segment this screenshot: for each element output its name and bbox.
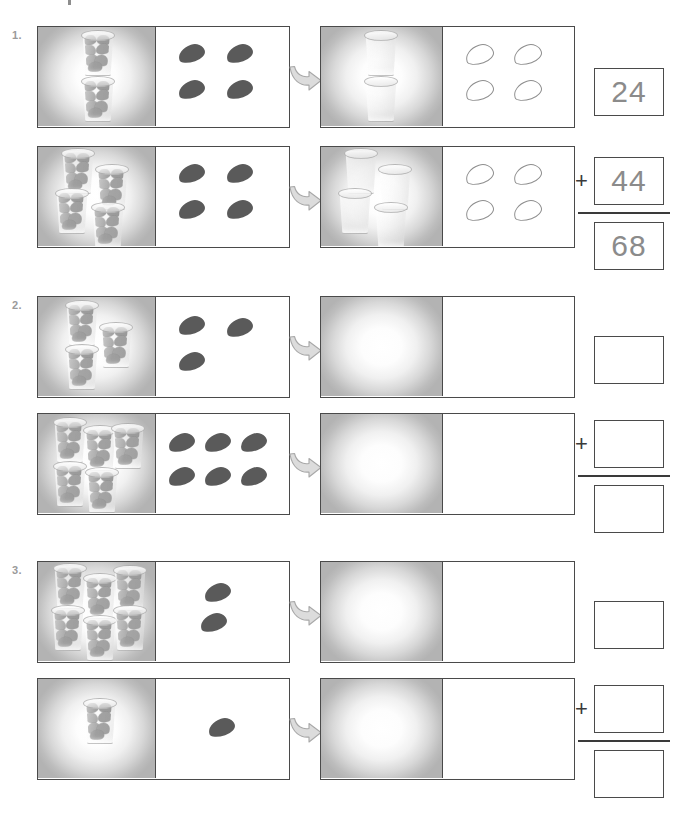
cup-filled-with-beans (82, 701, 116, 743)
cup-filled-with-beans (90, 205, 124, 246)
cup-rim (53, 461, 87, 472)
cup-filled-with-beans (84, 470, 118, 512)
source-panel-pair (37, 146, 290, 248)
bean-solid (176, 197, 207, 222)
cup-rim (364, 30, 398, 41)
source-bean-panel (156, 562, 288, 661)
bean-solid (206, 715, 237, 740)
bean-solid (224, 41, 255, 66)
cup-filled-with-beans (60, 151, 94, 193)
cup-filled-with-beans (54, 191, 88, 233)
result-cup-panel (321, 297, 443, 396)
result-panel-pair (320, 561, 575, 663)
cup-rim (65, 344, 99, 355)
answer-box-addend-2-p3[interactable] (594, 685, 664, 733)
answer-box-sum-p2[interactable] (594, 485, 664, 533)
source-cup-panel (38, 562, 156, 661)
cup-rim (113, 565, 147, 576)
bean-solid (176, 41, 207, 66)
cup-rim (83, 698, 117, 709)
answer-box-sum-p1[interactable]: 68 (594, 222, 664, 270)
cup-rim (95, 164, 129, 175)
bean-solid (166, 430, 197, 455)
cup-filled-with-beans (52, 566, 86, 608)
bean-solid (202, 464, 233, 489)
bean-solid (176, 161, 207, 186)
source-bean-panel (156, 297, 288, 396)
source-panel-pair (37, 26, 290, 128)
cup-filled-with-beans (52, 464, 86, 506)
problem-number-3: 3. (12, 564, 22, 576)
bean-solid (166, 464, 197, 489)
cup-rim (65, 300, 99, 311)
cup-rim (55, 188, 89, 199)
answer-box-addend-1-p1[interactable]: 24 (594, 68, 664, 116)
bean-outline (511, 41, 544, 68)
source-cup-panel (38, 27, 156, 126)
cup-rim (81, 76, 115, 87)
result-panel-pair (320, 146, 575, 248)
transfer-arrow-icon (288, 714, 322, 748)
result-panel-pair (320, 26, 575, 128)
cup-rim (91, 202, 125, 213)
result-cup-panel (321, 562, 443, 661)
cup-rim (99, 322, 133, 333)
result-bean-panel (443, 679, 573, 778)
cup-rim (344, 148, 378, 159)
cup-filled-with-beans (64, 347, 98, 389)
result-cup-panel (321, 414, 443, 513)
bean-outline (511, 161, 544, 188)
answer-box-addend-1-p2[interactable] (594, 336, 664, 384)
cup-rim (51, 605, 85, 616)
cup-rim (374, 202, 408, 213)
result-bean-panel (443, 414, 573, 513)
cup-rim (113, 605, 147, 616)
bean-outline (463, 41, 496, 68)
source-bean-panel (156, 679, 288, 778)
bean-solid (198, 610, 229, 635)
answer-box-addend-2-p2[interactable] (594, 420, 664, 468)
result-bean-panel (443, 27, 573, 126)
cup-filled-with-beans (50, 608, 84, 650)
source-cup-panel (38, 297, 156, 396)
result-bean-panel (443, 562, 573, 661)
source-panel-pair (37, 561, 290, 663)
sum-rule-p1 (578, 212, 670, 214)
source-panel-pair (37, 296, 290, 398)
cup-filled-with-beans (112, 608, 146, 650)
transfer-arrow-icon (288, 182, 322, 216)
bean-solid (224, 315, 255, 340)
plus-sign-p3: + (575, 698, 588, 720)
result-panel-pair (320, 678, 575, 780)
bean-solid (202, 430, 233, 455)
transfer-arrow-icon (288, 332, 322, 366)
cup-filled-with-beans (112, 568, 146, 610)
result-cup-panel (321, 27, 443, 126)
cup-rim (53, 417, 87, 428)
plus-sign-p2: + (575, 433, 588, 455)
cup-filled-with-beans (64, 303, 98, 345)
result-bean-panel (443, 147, 573, 246)
cup-rim (61, 148, 95, 159)
cup-filled-with-beans (80, 33, 114, 75)
bean-outline (463, 161, 496, 188)
source-cup-panel (38, 414, 156, 513)
cup-rim (338, 188, 372, 199)
result-panel-pair (320, 413, 575, 515)
page-top-mark (68, 0, 71, 5)
sum-rule-p2 (578, 475, 670, 477)
bean-solid (238, 430, 269, 455)
bean-solid (224, 197, 255, 222)
plus-sign-p1: + (575, 170, 588, 192)
problem-number-2: 2. (12, 299, 22, 311)
answer-box-addend-1-p3[interactable] (594, 601, 664, 649)
cup-rim (364, 76, 398, 87)
cup-filled-with-beans (52, 420, 86, 462)
source-cup-panel (38, 679, 156, 778)
cup-empty (363, 79, 397, 121)
result-panel-pair (320, 296, 575, 398)
bean-solid (224, 161, 255, 186)
answer-box-addend-2-p1[interactable]: 44 (594, 157, 664, 205)
answer-box-sum-p3[interactable] (594, 750, 664, 798)
bean-outline (511, 197, 544, 224)
